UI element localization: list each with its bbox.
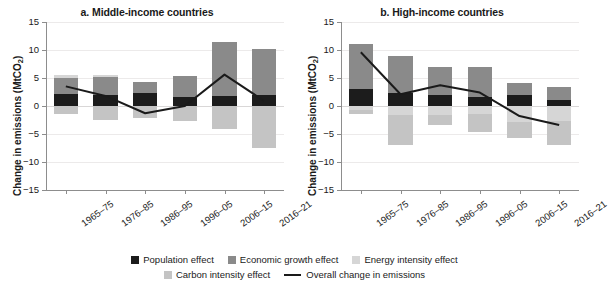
x-tick <box>440 190 441 194</box>
x-axis-line <box>46 190 284 191</box>
y-axis-label-paren: ) <box>307 56 318 59</box>
legend-color-swatch <box>164 271 172 279</box>
legend-item-overall-change-in-emissions[interactable]: Overall change in emissions <box>284 270 425 280</box>
panel-b-title: b. High-income countries <box>295 6 589 18</box>
x-tick <box>145 190 146 194</box>
x-tick <box>401 190 402 194</box>
y-axis-label-paren: ) <box>12 56 23 59</box>
y-tick-label: −10 <box>6 157 39 167</box>
x-tick-label: 2016–21 <box>572 198 608 229</box>
x-tick-label: 2006–15 <box>238 198 274 229</box>
y-axis-label-subscript: 2 <box>16 59 25 63</box>
legend-label: Carbon intensity effect <box>176 270 270 280</box>
y-tick-label: −15 <box>6 185 39 195</box>
x-tick-label: 1986–95 <box>453 198 489 229</box>
y-tick-label: −5 <box>6 129 39 139</box>
x-tick <box>106 190 107 194</box>
y-tick--15 <box>42 190 46 191</box>
legend-label: Economic growth effect <box>240 255 339 265</box>
x-tick <box>185 190 186 194</box>
x-tick-label: 1976–85 <box>119 198 155 229</box>
overall-change-polyline <box>66 75 264 114</box>
legend-color-swatch <box>228 256 236 264</box>
overall-change-line <box>46 22 284 190</box>
chart-legend: Population effectEconomic growth effectE… <box>0 252 589 298</box>
x-tick-label: 1996–05 <box>198 198 234 229</box>
legend-label: Population effect <box>143 255 214 265</box>
x-tick <box>559 190 560 194</box>
x-tick <box>480 190 481 194</box>
x-tick <box>225 190 226 194</box>
x-tick <box>520 190 521 194</box>
x-tick <box>66 190 67 194</box>
y-tick-label: 15 <box>301 17 334 27</box>
y-axis-label-subscript: 2 <box>311 59 320 63</box>
x-tick-label: 1965–75 <box>79 198 115 229</box>
y-tick-label: 0 <box>6 101 39 111</box>
legend-item-carbon-intensity-effect[interactable]: Carbon intensity effect <box>164 270 270 280</box>
y-tick-label: 0 <box>301 101 334 111</box>
x-axis-line <box>341 190 579 191</box>
x-tick-label: 1996–05 <box>493 198 529 229</box>
y-tick--15 <box>337 190 341 191</box>
y-tick-label: −15 <box>301 185 334 195</box>
legend-item-population-effect[interactable]: Population effect <box>131 255 214 265</box>
legend-label: Energy intensity effect <box>364 255 457 265</box>
x-tick-label: 2006–15 <box>533 198 569 229</box>
y-tick-label: 5 <box>301 73 334 83</box>
y-tick-label: −10 <box>301 157 334 167</box>
overall-change-polyline <box>361 52 559 125</box>
y-tick-label: 5 <box>6 73 39 83</box>
y-tick-label: 10 <box>301 45 334 55</box>
panel-a-title: a. Middle-income countries <box>0 6 294 18</box>
y-tick-label: −5 <box>301 129 334 139</box>
chart-panel-b: b. High-income countries Change in emiss… <box>295 0 589 250</box>
overall-change-line <box>341 22 579 190</box>
legend-label: Overall change in emissions <box>306 270 425 280</box>
legend-color-swatch <box>352 256 360 264</box>
legend-color-swatch <box>131 256 139 264</box>
x-tick <box>264 190 265 194</box>
x-tick-label: 1986–95 <box>158 198 194 229</box>
legend-item-economic-growth-effect[interactable]: Economic growth effect <box>228 255 339 265</box>
legend-row-bottom: Carbon intensity effectOverall change in… <box>0 267 589 282</box>
y-tick-label: 15 <box>6 17 39 27</box>
x-tick-label: 1965–75 <box>374 198 410 229</box>
panel-b-plot-area: 151050−5−10−151965–751976–851986–951996–… <box>341 22 579 190</box>
legend-line-swatch <box>284 274 301 276</box>
legend-item-energy-intensity-effect[interactable]: Energy intensity effect <box>352 255 457 265</box>
chart-panel-a: a. Middle-income countries Change in emi… <box>0 0 294 250</box>
panel-a-plot-area: 151050−5−10−151965–751976–851986–951996–… <box>46 22 284 190</box>
y-tick-label: 10 <box>6 45 39 55</box>
x-tick <box>361 190 362 194</box>
x-tick-label: 1976–85 <box>414 198 450 229</box>
legend-row-top: Population effectEconomic growth effectE… <box>0 252 589 267</box>
